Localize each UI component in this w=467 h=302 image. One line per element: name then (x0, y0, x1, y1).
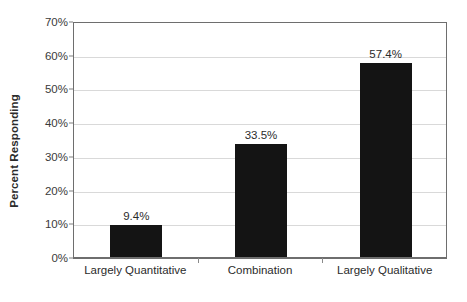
y-axis-tick-label: 60% (27, 50, 73, 62)
x-axis-line (73, 258, 447, 259)
y-axis-tick-label: 30% (27, 151, 73, 163)
y-axis-tick-label: 0% (27, 252, 73, 264)
y-axis-tick-layer: 0%10%20%30%40%50%60%70% (27, 22, 73, 258)
x-axis-tick-label: Largely Quantitative (84, 264, 186, 276)
x-axis-tick-label: Largely Qualitative (337, 264, 432, 276)
x-axis-tick-label: Combination (228, 264, 293, 276)
plot-area: 9.4%33.5%57.4% (73, 22, 447, 258)
bar-chart: Percent Responding 0%10%20%30%40%50%60%7… (0, 0, 467, 302)
bar-group: 57.4% (323, 23, 448, 257)
bar-value-label: 57.4% (369, 48, 402, 60)
bar[interactable] (110, 225, 162, 257)
y-axis-tick-label: 70% (27, 16, 73, 28)
y-axis-tick-label: 10% (27, 218, 73, 230)
y-axis-title: Percent Responding (0, 0, 28, 302)
bar[interactable] (360, 63, 412, 257)
bar-value-label: 33.5% (245, 129, 278, 141)
bar-group: 33.5% (199, 23, 324, 257)
x-axis-divider-tick (322, 258, 323, 263)
y-axis-tick-label: 50% (27, 83, 73, 95)
bar-value-label: 9.4% (123, 210, 149, 222)
y-axis-tick-label: 20% (27, 185, 73, 197)
bar[interactable] (235, 144, 287, 257)
x-axis-divider-tick (198, 258, 199, 263)
y-axis-tick-label: 40% (27, 117, 73, 129)
bar-group: 9.4% (74, 23, 199, 257)
